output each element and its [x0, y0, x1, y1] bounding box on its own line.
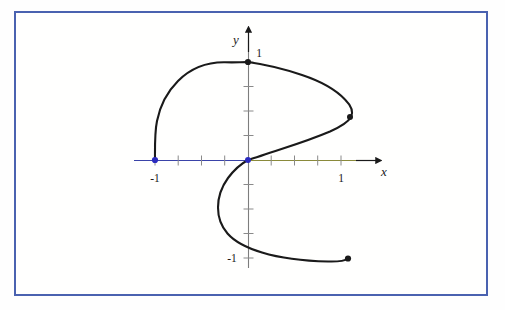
point-origin [245, 157, 251, 163]
y-tick-label-neg1: -1 [227, 252, 237, 264]
y-tick-label-pos1: 1 [256, 47, 262, 59]
point-y-equals-1 [245, 59, 251, 65]
x-tick-label-neg1: -1 [150, 172, 160, 184]
parametric-curve [155, 62, 352, 262]
plot-canvas: x y -1 1 1 -1 [0, 0, 505, 310]
figure-root: x y -1 1 1 -1 [0, 0, 505, 310]
endpoint-left-x-minus-1 [152, 157, 158, 163]
x-tick-label-pos1: 1 [338, 172, 344, 184]
point-rightmost [347, 114, 353, 120]
y-axis-label: y [231, 32, 239, 47]
endpoint-bottom-right [345, 255, 351, 261]
x-axis-label: x [380, 164, 387, 179]
